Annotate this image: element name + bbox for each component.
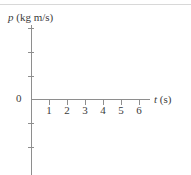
origin-label: 0	[16, 92, 22, 105]
y-axis-tick	[28, 28, 34, 29]
x-tick-label-1: 1	[42, 104, 56, 117]
y-axis-tick	[28, 76, 34, 77]
y-axis-variable: p	[8, 11, 14, 23]
y-axis-tick	[28, 123, 34, 124]
y-axis-tick	[28, 147, 34, 148]
top-divider-rule	[0, 4, 191, 5]
x-tick-label-3: 3	[78, 104, 92, 117]
x-axis-label: t (s)	[154, 92, 171, 106]
y-axis-line	[31, 25, 32, 175]
y-axis-units: (kg m/s)	[16, 11, 53, 23]
x-tick-label-6: 6	[132, 104, 146, 117]
x-tick-label-2: 2	[60, 104, 74, 117]
x-axis-variable: t	[154, 93, 157, 105]
y-axis-tick	[28, 52, 34, 53]
y-axis-label: p (kg m/s)	[8, 10, 53, 24]
x-tick-label-4: 4	[96, 104, 110, 117]
x-tick-label-5: 5	[114, 104, 128, 117]
momentum-time-axes-figure: 1 2 3 4 5 6 0 p (kg m/s) t (s)	[0, 0, 191, 175]
x-axis-units: (s)	[160, 93, 172, 105]
